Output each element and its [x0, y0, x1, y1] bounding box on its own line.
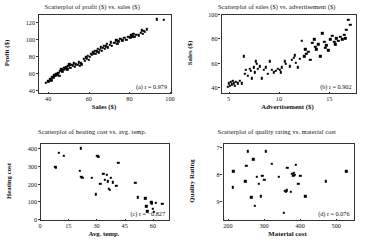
data-point — [324, 47, 326, 49]
y-tick-mark — [38, 201, 40, 202]
y-tick-mark — [218, 87, 220, 88]
scatter-panel-a: Scatterplot of profit ($) vs. sales ($)(… — [0, 0, 185, 125]
y-tick-mark — [36, 39, 38, 40]
y-tick-label: 120 — [26, 19, 35, 26]
y-axis-label-b: Sales ($) — [185, 41, 192, 65]
x-tick-mark — [336, 219, 337, 221]
y-axis-label-c: Heating cost — [5, 163, 12, 199]
y-tick-label: 300 — [28, 162, 37, 169]
data-point — [113, 42, 115, 44]
data-point — [301, 39, 303, 41]
y-axis-label-a: Profit ($) — [3, 40, 10, 66]
data-point — [289, 65, 291, 67]
data-point — [117, 161, 119, 163]
data-point — [297, 66, 299, 68]
y-tick-label: 40 — [211, 84, 217, 91]
x-tick-mark — [264, 219, 265, 221]
data-point — [151, 202, 153, 204]
data-point — [280, 71, 282, 73]
plot-area-c: (c) r = −0.827 — [40, 143, 170, 221]
panel-title-c: Scatterplot of heating cost vs. avg. tem… — [0, 128, 185, 135]
data-point — [125, 38, 127, 40]
data-point — [110, 41, 112, 43]
x-tick-mark — [96, 219, 97, 221]
data-point — [341, 38, 343, 40]
data-point — [231, 186, 233, 188]
data-point — [281, 66, 283, 68]
x-tick-mark — [229, 92, 230, 94]
data-point — [257, 183, 259, 185]
data-point — [304, 48, 306, 50]
data-point — [327, 49, 329, 51]
data-point — [102, 172, 104, 174]
y-tick-label: 0 — [34, 216, 37, 223]
data-point — [106, 43, 108, 45]
data-point — [233, 84, 235, 86]
x-tick-label: 60 — [150, 222, 156, 229]
data-point — [95, 53, 97, 55]
data-point — [275, 70, 277, 72]
data-point — [293, 173, 295, 175]
data-point — [261, 175, 263, 177]
y-tick-label: 80 — [29, 53, 35, 60]
data-point — [309, 59, 311, 61]
data-point — [156, 18, 158, 20]
y-tick-mark — [38, 219, 40, 220]
data-point — [109, 177, 111, 179]
x-tick-label: 300 — [259, 222, 268, 229]
x-tick-label: 200 — [223, 222, 232, 229]
data-point — [121, 39, 123, 41]
data-point — [295, 61, 297, 63]
data-point — [299, 58, 301, 60]
y-tick-mark — [38, 184, 40, 185]
data-point — [143, 31, 145, 33]
y-tick-mark — [36, 90, 38, 91]
y-tick-label: 400 — [28, 145, 37, 152]
y-tick-label: 100 — [28, 198, 37, 205]
x-tick-mark — [300, 219, 301, 221]
x-tick-mark — [68, 219, 69, 221]
data-point — [267, 72, 269, 74]
x-tick-mark — [329, 92, 330, 94]
data-point — [334, 43, 336, 45]
y-tick-mark — [220, 201, 222, 202]
data-point — [98, 51, 100, 53]
y-tick-mark — [36, 56, 38, 57]
data-point — [250, 196, 252, 198]
y-tick-label: 80 — [211, 35, 217, 42]
data-point — [250, 70, 252, 72]
data-point — [285, 189, 287, 191]
data-point — [323, 41, 325, 43]
x-tick-label: 40 — [45, 95, 51, 102]
x-tick-label: 15 — [65, 222, 71, 229]
data-point — [47, 80, 49, 82]
y-tick-mark — [218, 63, 220, 64]
x-axis-label-d: Material cost — [223, 230, 353, 237]
data-point — [117, 40, 119, 42]
x-tick-label: 30 — [93, 222, 99, 229]
y-tick-mark — [36, 22, 38, 23]
data-point — [79, 147, 81, 149]
data-point — [344, 37, 346, 39]
plot-area-a: (a) r = 0.979 — [38, 14, 172, 94]
correlation-annotation-c: (c) r = −0.827 — [131, 210, 165, 217]
x-tick-mark — [228, 219, 229, 221]
data-point — [137, 34, 139, 36]
y-tick-mark — [218, 14, 220, 15]
x-axis-label-b: Advertisement ($) — [221, 103, 355, 110]
data-point — [337, 39, 339, 41]
y-tick-label: 100 — [208, 11, 217, 18]
data-point — [101, 49, 103, 51]
data-point — [319, 55, 321, 57]
data-point — [109, 189, 111, 191]
data-point — [246, 150, 248, 152]
data-point — [97, 156, 99, 158]
data-point — [145, 205, 147, 207]
correlation-annotation-b: (b) r = 0.902 — [320, 83, 351, 90]
data-point — [291, 59, 293, 61]
y-tick-label: 40 — [29, 87, 35, 94]
data-point — [313, 38, 315, 40]
data-point — [80, 63, 82, 65]
y-tick-mark — [220, 174, 222, 175]
data-point — [299, 175, 301, 177]
